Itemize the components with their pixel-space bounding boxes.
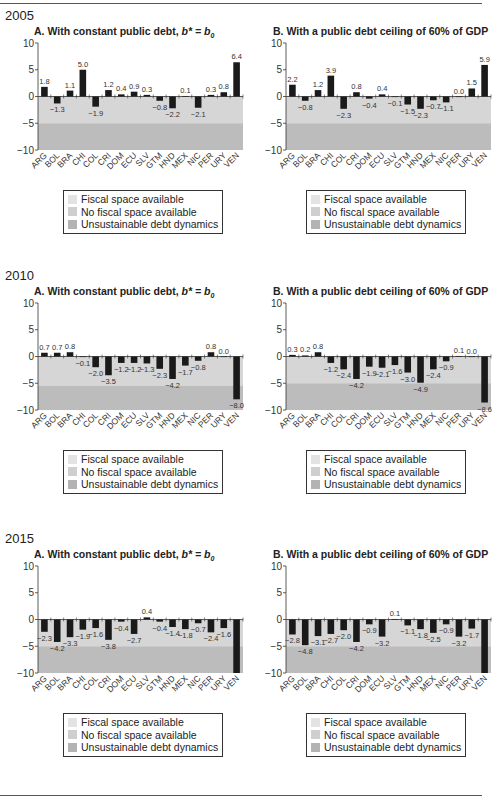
bar-ecu — [379, 94, 386, 96]
bar-bra — [315, 352, 322, 356]
bar-value-label: 1.1 — [65, 81, 75, 90]
bar-value-label: 0.1 — [390, 609, 400, 618]
legend-label: No fiscal space available — [81, 206, 197, 219]
bar-chi — [328, 76, 335, 97]
bar-value-label: 0.3 — [142, 85, 152, 94]
legend-swatch — [68, 480, 77, 489]
bar-chart: 1050−5−100.3ARG0.2BOL0.8BRA−1.2CHI−2.4CO… — [248, 298, 496, 458]
bar-value-label: −0.9 — [362, 626, 377, 635]
panel-title: A. With constant public debt, b* = b0 — [34, 25, 214, 39]
bar-value-label: 0.8 — [65, 342, 75, 351]
y-tick-label: 5 — [276, 64, 282, 75]
bar-slv — [144, 95, 151, 97]
y-tick-label: −5 — [23, 118, 35, 129]
bar-value-label: 0.8 — [351, 82, 361, 91]
chart-panel-2005-a: A. With constant public debt, b* = b0105… — [0, 25, 248, 250]
legend-item: Unsustainable debt dynamics — [311, 741, 461, 754]
legend: Fiscal space availableNo fiscal space av… — [63, 450, 223, 494]
bar-ecu — [131, 92, 138, 97]
y-tick-label: −5 — [23, 641, 35, 652]
y-tick-label: −10 — [265, 668, 282, 679]
y-tick-label: −10 — [17, 668, 34, 679]
legend-label: Fiscal space available — [81, 193, 184, 206]
bar-value-label: 0.4 — [377, 84, 387, 93]
bar-ecu — [131, 357, 138, 363]
bar-value-label: 2.2 — [287, 75, 297, 84]
bar-nic — [443, 620, 450, 625]
bar-slv — [144, 617, 151, 619]
top-rule — [0, 3, 482, 4]
bar-value-label: 1.8 — [39, 77, 49, 86]
bar-ven — [233, 62, 240, 96]
bar-bol — [302, 97, 309, 101]
bar-nic — [443, 97, 450, 103]
legend-label: Unsustainable debt dynamics — [324, 218, 461, 231]
bar-value-label: 0.1 — [454, 346, 464, 355]
bar-value-label: 0.3 — [287, 345, 297, 354]
bar-slv — [144, 357, 151, 364]
bar-value-label: 1.2 — [313, 80, 323, 89]
bar-bol — [54, 353, 61, 357]
bar-mex — [182, 620, 189, 630]
bar-col — [340, 357, 347, 370]
bar-dom — [366, 357, 373, 367]
legend-swatch — [68, 743, 77, 752]
legend-label: Unsustainable debt dynamics — [81, 478, 218, 491]
bar-chart: 1050−5−100.7ARG0.7BOL0.8BRA−0.1CHI−2.0CO… — [0, 298, 248, 458]
bar-bol — [54, 97, 61, 104]
bar-ury — [220, 620, 227, 629]
bar-arg — [41, 620, 48, 632]
legend-item: Fiscal space available — [68, 453, 218, 466]
legend: Fiscal space availableNo fiscal space av… — [306, 450, 466, 494]
x-category-label: VEN — [222, 150, 241, 169]
bar-hnd — [169, 357, 176, 379]
panel-title: A. With constant public debt, b* = b0 — [34, 285, 214, 299]
bar-value-label: 0.0 — [219, 347, 229, 356]
bar-chart: 1050−5−102.2ARG−0.8BOL1.2BRA3.9CHI−2.3CO… — [248, 38, 496, 198]
bar-value-label: 0.0 — [454, 87, 464, 96]
bar-nic — [443, 357, 450, 362]
bar-value-label: 0.9 — [129, 82, 139, 91]
bar-value-label: −0.4 — [114, 624, 129, 633]
zone-no-fiscal-space — [38, 97, 243, 124]
bar-per — [208, 352, 215, 356]
bar-ecu — [131, 620, 138, 634]
legend: Fiscal space availableNo fiscal space av… — [306, 713, 466, 757]
y-tick-label: 10 — [271, 561, 283, 572]
legend-swatch — [311, 730, 320, 739]
bar-value-label: −8.0 — [229, 401, 244, 410]
legend-item: Unsustainable debt dynamics — [311, 478, 461, 491]
bar-ven — [481, 620, 488, 674]
chart-panel-2010-b: B. With a public debt ceiling of 60% of … — [248, 285, 496, 510]
legend-label: No fiscal space available — [324, 206, 440, 219]
bar-value-label: −4.2 — [165, 381, 180, 390]
bar-value-label: −2.8 — [285, 636, 300, 645]
y-tick-label: 10 — [23, 298, 35, 309]
bar-value-label: 0.8 — [313, 342, 323, 351]
bar-slv — [392, 619, 399, 620]
bar-col — [92, 97, 99, 107]
panel-title: A. With constant public debt, b* = b0 — [34, 548, 214, 562]
bar-hnd — [417, 620, 424, 630]
legend-label: Unsustainable debt dynamics — [324, 478, 461, 491]
bar-hnd — [169, 97, 176, 109]
y-tick-label: 10 — [23, 561, 35, 572]
y-tick-label: 5 — [28, 324, 34, 335]
bar-bra — [67, 352, 74, 356]
bar-arg — [41, 353, 48, 357]
bar-cri — [353, 92, 360, 96]
bar-col — [340, 97, 347, 109]
bar-arg — [289, 85, 296, 97]
bar-value-label: −2.3 — [37, 634, 52, 643]
y-tick-label: −5 — [23, 378, 35, 389]
bar-value-label: −1.1 — [439, 104, 454, 113]
bar-bra — [67, 91, 74, 97]
bar-dom — [118, 620, 125, 622]
bar-gtm — [156, 97, 163, 101]
legend-item: Unsustainable debt dynamics — [68, 741, 218, 754]
bar-mex — [430, 97, 437, 101]
bar-mex — [182, 96, 189, 97]
legend-swatch — [311, 220, 320, 229]
y-tick-label: 5 — [28, 587, 34, 598]
legend-item: Fiscal space available — [311, 453, 461, 466]
